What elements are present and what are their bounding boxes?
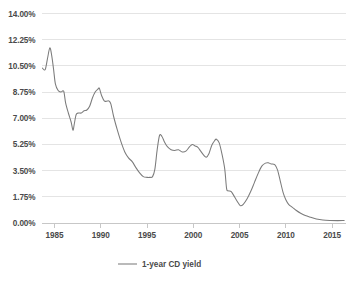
- x-axis-tick-label: 2015: [323, 231, 341, 240]
- x-axis-tick-label: 1990: [92, 231, 110, 240]
- legend: 1-year CD yield: [118, 260, 201, 269]
- x-axis: [54, 224, 332, 229]
- y-axis-tick-label: 0.00%: [13, 219, 37, 228]
- x-axis-tick-label: 1985: [46, 231, 64, 240]
- gridlines-group: [42, 14, 347, 224]
- x-axis-tick-label: 2010: [277, 231, 295, 240]
- y-axis-tick-label: 8.75%: [13, 88, 37, 97]
- y-axis-tick-label: 3.50%: [13, 167, 37, 176]
- x-axis-tick-labels: 1985199019952000200520102015: [46, 231, 342, 240]
- y-axis-tick-label: 5.25%: [13, 140, 37, 149]
- y-axis-tick-label: 12.25%: [8, 36, 36, 45]
- y-axis-tick-label: 7.00%: [13, 114, 37, 123]
- y-axis-tick-label: 10.50%: [8, 62, 36, 71]
- x-axis-tick-label: 2000: [184, 231, 202, 240]
- y-axis-tick-label: 1.75%: [13, 193, 37, 202]
- series-layer: [42, 48, 344, 221]
- x-axis-tick-label: 1995: [138, 231, 156, 240]
- legend-item-label: 1-year CD yield: [142, 260, 201, 269]
- line-chart: 14.00%12.25%10.50%8.75%7.00%5.25%3.50%1.…: [0, 0, 353, 282]
- x-axis-tick-label: 2005: [231, 231, 249, 240]
- chart-container: 14.00%12.25%10.50%8.75%7.00%5.25%3.50%1.…: [0, 0, 353, 282]
- y-axis-tick-label: 14.00%: [8, 10, 36, 19]
- series-line-1-year-cd-yield: [42, 48, 344, 221]
- y-axis-tick-labels: 14.00%12.25%10.50%8.75%7.00%5.25%3.50%1.…: [8, 10, 36, 229]
